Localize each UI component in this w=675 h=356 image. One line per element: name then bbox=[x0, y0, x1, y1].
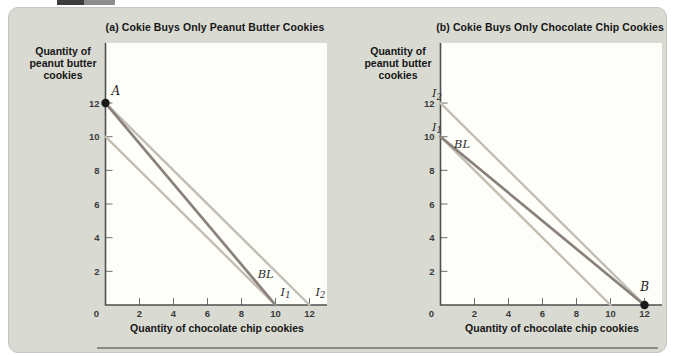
x-tick-label: 8 bbox=[239, 308, 244, 319]
y-tick-label: 10 bbox=[89, 131, 100, 142]
x-tick-label: 0 bbox=[94, 308, 99, 319]
x-tick-label: 0 bbox=[429, 308, 434, 319]
y-tick-label: 6 bbox=[94, 199, 99, 210]
x-tick-label: 6 bbox=[540, 308, 545, 319]
x-tick-label: 2 bbox=[472, 308, 477, 319]
x-tick-label: 10 bbox=[605, 308, 616, 319]
x-axis-label-a: Quantity of chocolate chip cookies bbox=[103, 322, 331, 334]
y-tick-label: 12 bbox=[89, 98, 100, 109]
y-tick-label: 2 bbox=[94, 266, 99, 277]
page-edge-tab bbox=[57, 0, 115, 5]
x-tick-label: 12 bbox=[304, 308, 315, 319]
optimum-point-b bbox=[640, 301, 648, 309]
x-tick-label: 10 bbox=[270, 308, 281, 319]
x-tick-label: 6 bbox=[205, 308, 210, 319]
optimum-point-label-b: B bbox=[639, 280, 649, 294]
plot-background bbox=[106, 43, 328, 305]
x-tick-label: 8 bbox=[574, 308, 579, 319]
budget-line-label-bl: BL bbox=[453, 137, 470, 151]
plot-background bbox=[441, 43, 663, 305]
chart-panel-b: (b) Cokie Buys Only Chocolate Chip Cooki… bbox=[335, 0, 675, 356]
y-tick-label: 2 bbox=[429, 266, 434, 277]
budget-line-label-bl: BL bbox=[257, 267, 274, 281]
plot-area-a: 24681012024681012BLI1I2A bbox=[0, 0, 340, 356]
bottom-rule bbox=[97, 347, 658, 349]
optimum-point-label-a: A bbox=[110, 84, 120, 98]
y-tick-label: 8 bbox=[429, 165, 434, 176]
plot-area-b: 24681012024681012BLI1I2B bbox=[335, 0, 675, 356]
x-tick-label: 4 bbox=[171, 308, 177, 319]
x-tick-label: 2 bbox=[137, 308, 142, 319]
x-tick-label: 4 bbox=[506, 308, 512, 319]
x-tick-label: 12 bbox=[639, 308, 650, 319]
figure-page: { "figure": { "panel_bg": "#d9dbd3", "pl… bbox=[0, 0, 675, 356]
y-tick-label: 4 bbox=[94, 232, 100, 243]
y-tick-label: 4 bbox=[429, 232, 435, 243]
chart-panel-a: (a) Cokie Buys Only Peanut Butter Cookie… bbox=[0, 0, 340, 356]
y-tick-label: 8 bbox=[94, 165, 99, 176]
y-tick-label: 6 bbox=[429, 199, 434, 210]
optimum-point-a bbox=[101, 99, 109, 107]
x-axis-label-b: Quantity of chocolate chip cookies bbox=[438, 322, 666, 334]
